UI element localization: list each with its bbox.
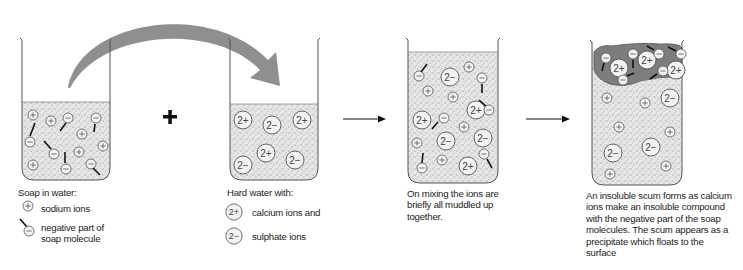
legend-label-sodium-ions: sodium ions [41,203,90,214]
legend-label-calcium-ions: calcium ions and [252,207,320,218]
caption-scum: An insoluble scum forms as calcium ions … [586,190,732,258]
legend-calcium-ion-icon [226,204,242,220]
beaker-scum [590,40,686,185]
legend-soap-molecule-icon [20,219,34,236]
legend-label-soap-molecule: negative part of soap molecule [41,222,104,245]
plus-operator-icon [163,110,177,124]
pour-arrow-icon [68,24,280,88]
legend-sodium-ion-icon [23,201,33,211]
caption-soap-in-water: Soap in water: [18,187,77,198]
beaker-mixing [406,38,500,183]
caption-mixing: On mixing the ions are briefly all muddl… [407,188,499,222]
beaker-soap-in-water [20,38,112,180]
legend-label-sulphate-ions: sulphate ions [252,231,306,242]
process-arrow-icon [526,116,570,123]
caption-hard-water: Hard water with: [227,187,293,198]
process-arrow-icon [343,116,386,123]
legend-sulphate-ion-icon [226,228,242,244]
